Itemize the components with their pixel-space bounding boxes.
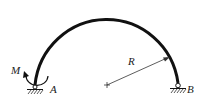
radius-arrow — [107, 57, 170, 85]
support-a-icon — [27, 85, 43, 94]
moment-label: M — [11, 65, 20, 76]
support-b-icon — [170, 83, 186, 93]
arch-diagram — [0, 0, 203, 104]
support-a-label: A — [50, 84, 57, 95]
radius-label: R — [128, 56, 135, 67]
support-b-label: B — [187, 84, 194, 95]
arch-member — [35, 20, 178, 85]
